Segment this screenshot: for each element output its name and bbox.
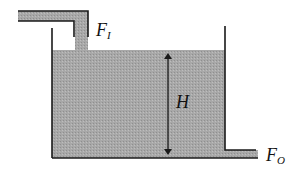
outflow-label: FO [266,146,285,166]
inflow-label: FI [96,21,111,41]
height-label: H [176,93,189,111]
tank-diagram [0,0,301,177]
outflow-label-main: F [266,145,277,165]
inflow-label-main: F [96,20,107,40]
liquid [52,50,225,158]
inlet-pipe [18,11,88,50]
inflow-label-sub: I [107,29,111,41]
outflow-label-sub: O [277,154,285,166]
outlet-liquid [225,150,258,158]
height-label-text: H [176,92,189,112]
